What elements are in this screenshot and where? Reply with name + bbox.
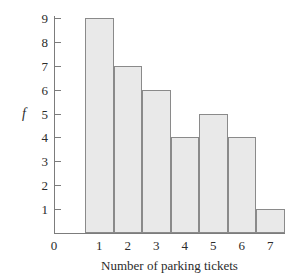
frequency-histogram: f 987654321 0 1234567 Number of parking … bbox=[0, 0, 300, 280]
x-tick-label-3: 3 bbox=[141, 239, 171, 252]
bar-6 bbox=[228, 137, 257, 233]
bar-2 bbox=[114, 66, 143, 233]
x-axis-title: Number of parking tickets bbox=[54, 259, 285, 272]
x-tick-label-7: 7 bbox=[255, 239, 285, 252]
bar-1 bbox=[85, 18, 114, 233]
bar-3 bbox=[142, 90, 171, 233]
bar-5 bbox=[199, 114, 228, 233]
x-tick-label-6: 6 bbox=[227, 239, 257, 252]
x-tick-label-0: 0 bbox=[39, 239, 69, 252]
bar-7 bbox=[256, 209, 285, 233]
bars-group bbox=[0, 0, 300, 280]
x-tick-label-4: 4 bbox=[170, 239, 200, 252]
x-tick-label-5: 5 bbox=[198, 239, 228, 252]
bar-4 bbox=[171, 137, 200, 233]
x-tick-label-2: 2 bbox=[113, 239, 143, 252]
x-tick-label-1: 1 bbox=[84, 239, 114, 252]
